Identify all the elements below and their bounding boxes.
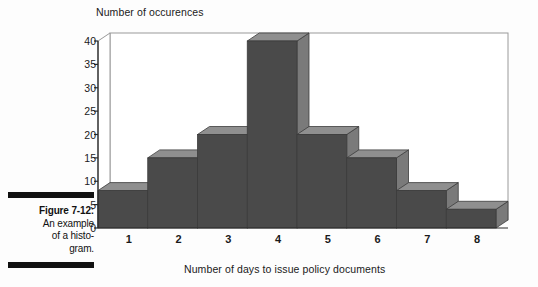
x-tick-label-4: 4 xyxy=(268,233,288,245)
x-tick-label-3: 3 xyxy=(218,233,238,245)
x-tick-label-8: 8 xyxy=(467,233,487,245)
figure-page: Figure 7-12: An example of a histo- gram… xyxy=(0,0,538,287)
histogram-chart: Number of occurences Number of days to i… xyxy=(0,0,538,287)
x-axis-tick-labels: 12345678 xyxy=(0,0,538,287)
x-tick-label-6: 6 xyxy=(368,233,388,245)
x-tick-label-1: 1 xyxy=(119,233,139,245)
x-tick-label-7: 7 xyxy=(417,233,437,245)
x-tick-label-5: 5 xyxy=(318,233,338,245)
x-tick-label-2: 2 xyxy=(169,233,189,245)
